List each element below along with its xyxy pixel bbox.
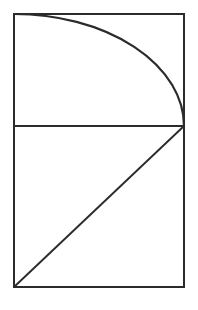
figure-canvas xyxy=(0,0,198,310)
geometry-diagram xyxy=(0,0,198,310)
canvas-background xyxy=(0,0,198,310)
